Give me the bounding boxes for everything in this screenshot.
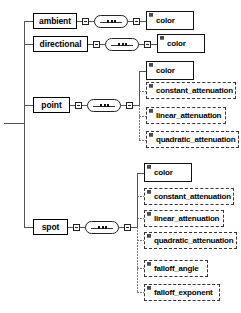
sequence-dot [107,20,109,23]
sequence-dot [118,43,120,46]
element-point-quadratic-attenuation-label: quadratic_attenuation [156,136,235,144]
sequence-spot [85,221,119,234]
element-spot-constant-attenuation[interactable]: constant_attenuation [144,188,234,205]
element-point[interactable]: point [33,97,70,113]
sequence-dot [114,20,116,23]
attribute-icon [147,286,151,290]
sequence-dot [104,104,106,107]
toggle-ambient[interactable] [82,18,89,25]
element-spot-quadratic-attenuation-label: quadratic_attenuation [154,237,233,245]
element-point-constant-attenuation-label: constant_attenuation [156,87,233,95]
element-ambient-color[interactable]: color [146,11,194,30]
element-point-color[interactable]: color [146,61,194,80]
element-point-quadratic-attenuation[interactable]: quadratic_attenuation [146,131,239,148]
element-point-color-label: color [156,67,175,75]
element-spot-color-label: color [154,169,173,177]
attribute-icon [147,165,151,169]
toggle-ambient-children[interactable] [133,18,140,25]
attribute-icon [147,190,151,194]
element-ambient-color-label: color [156,17,175,25]
toggle-spot[interactable] [73,224,80,231]
element-point-linear-attenuation[interactable]: linear_attenuation [146,107,226,124]
element-spot[interactable]: spot [33,219,68,235]
element-spot-linear-attenuation-label: linear_attenuation [154,215,219,223]
sequence-dot [105,226,107,229]
element-spot-falloff-exponent-label: falloff_exponent [154,289,213,297]
sequence-dot [107,104,109,107]
element-point-constant-attenuation[interactable]: constant_attenuation [146,82,236,99]
sequence-dot [122,43,124,46]
attribute-icon [147,234,151,238]
element-spot-linear-attenuation[interactable]: linear_attenuation [144,210,224,227]
toggle-point-children[interactable] [126,102,133,109]
element-ambient[interactable]: ambient [33,13,77,29]
attribute-icon [149,133,153,137]
attribute-icon [147,212,151,216]
element-spot-falloff-angle[interactable]: falloff_angle [144,260,208,277]
toggle-spot-children[interactable] [124,224,131,231]
element-spot-constant-attenuation-label: constant_attenuation [154,193,231,201]
toggle-point[interactable] [75,102,82,109]
sequence-dot [100,104,102,107]
schema-diagram: ambient color directional color point [0,0,241,313]
element-directional-color-label: color [167,40,186,48]
attribute-icon [149,63,153,67]
toggle-directional-children[interactable] [144,41,151,48]
element-directional-color[interactable]: color [157,34,205,53]
sequence-directional [105,38,139,51]
element-ambient-label: ambient [39,17,71,26]
element-point-label: point [41,101,61,110]
element-spot-label: spot [42,223,60,232]
element-spot-color[interactable]: color [144,163,192,182]
element-directional[interactable]: directional [33,36,88,52]
attribute-icon [147,262,151,266]
attribute-icon [149,13,153,17]
toggle-directional[interactable] [93,41,100,48]
element-point-linear-attenuation-label: linear_attenuation [156,112,221,120]
attribute-icon [149,84,153,88]
sequence-point [87,99,121,112]
attribute-icon [160,36,164,40]
element-directional-label: directional [40,40,82,49]
element-spot-falloff-angle-label: falloff_angle [154,265,199,273]
sequence-dot [125,43,127,46]
sequence-dot [111,20,113,23]
element-spot-falloff-exponent[interactable]: falloff_exponent [144,284,220,301]
sequence-ambient [94,15,128,28]
attribute-icon [149,109,153,113]
sequence-dot [102,226,104,229]
element-spot-quadratic-attenuation[interactable]: quadratic_attenuation [144,232,237,249]
sequence-dot [98,226,100,229]
